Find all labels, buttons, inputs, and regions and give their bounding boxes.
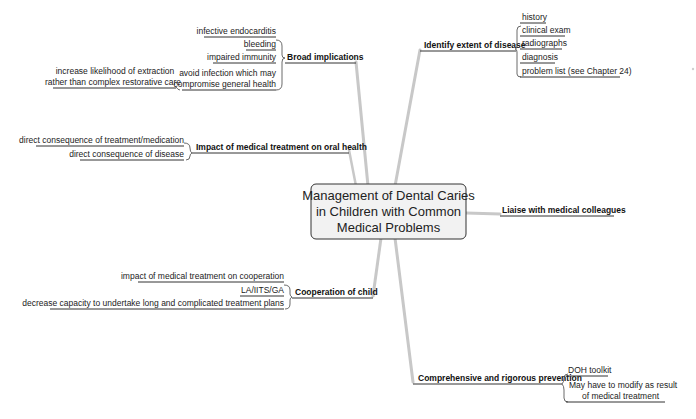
connector-broad [356,62,368,186]
branch-label-impact: Impact of medical treatment on oral heal… [196,142,367,152]
brace [184,143,192,160]
leaf-may-modify-line-1: May have to modify as result [569,380,678,390]
brace [284,285,292,309]
branch-identify-extent[interactable]: Identify extent of disease history clini… [420,12,632,77]
branch-cooperation-of-child[interactable]: Cooperation of child impact of medical t… [22,271,377,309]
leaf-clinical-exam: clinical exam [522,25,571,35]
connector-prevention [395,238,413,382]
branch-label-identify: Identify extent of disease [424,40,526,50]
connector-impact [349,150,356,186]
mind-map-canvas: Management of Dental Caries in Children … [0,0,696,419]
leaf-bleeding: bleeding [244,39,276,49]
leaf-direct-consequence-disease: direct consequence of disease [69,149,184,159]
leaf-avoid-infection-line-1: avoid infection which may [179,68,277,78]
leaf-impaired-immunity: impaired immunity [207,52,277,62]
leaf-radiographs: radiographs [522,38,567,48]
leaf-diagnosis: diagnosis [522,52,558,62]
leaf-doh-toolkit: DOH toolkit [568,365,612,375]
leaf-may-modify-line-2: of medical treatment [582,391,660,401]
central-title-line-1: Management of Dental Caries [302,188,475,203]
brace [276,40,285,90]
grandchild-increase-likelihood-line-1: increase likelihood of extraction [56,66,175,76]
central-node[interactable]: Management of Dental Caries in Children … [302,184,475,239]
leaf-history: history [522,12,548,22]
branch-broad-implications[interactable]: Broad implications infective endocarditi… [45,26,364,90]
branch-prevention[interactable]: Comprehensive and rigorous prevention DO… [413,365,678,402]
branch-impact-medical-treatment[interactable]: Impact of medical treatment on oral heal… [19,135,367,160]
decorative-dot [692,68,694,70]
connector-identify [395,50,420,186]
leaf-problem-list: problem list (see Chapter 24) [522,66,632,76]
leaf-la-iits-ga: LA/IITS/GA [241,285,284,295]
connector-liaise [466,213,500,214]
central-title-line-3: Medical Problems [337,220,441,235]
branch-label-broad: Broad implications [287,52,364,62]
grandchild-increase-likelihood-line-2: rather than complex restorative care [45,77,181,87]
branch-liaise[interactable]: Liaise with medical colleagues [500,205,626,216]
leaf-decrease-capacity: decrease capacity to undertake long and … [22,298,284,308]
leaf-impact-on-cooperation: impact of medical treatment on cooperati… [121,271,284,281]
central-title-line-2: in Children with Common [316,204,461,219]
branch-label-prevention: Comprehensive and rigorous prevention [418,373,582,383]
branch-label-liaise: Liaise with medical colleagues [502,205,626,215]
leaf-avoid-infection-line-2: compromise general health [173,79,276,89]
branch-label-cooperation: Cooperation of child [295,287,378,297]
leaf-direct-consequence-treatment: direct consequence of treatment/medicati… [19,135,184,145]
leaf-infective-endocarditis: infective endocarditis [197,26,276,36]
